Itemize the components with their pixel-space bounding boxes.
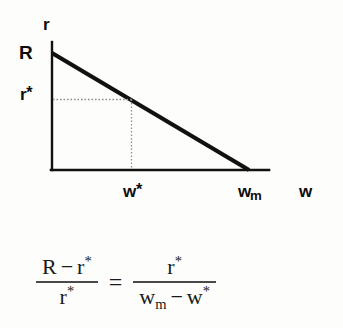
fraction-left-numerator: R−r*	[36, 254, 98, 281]
figure-container: r R r* w* wm w R−r* r* = r* wm−w*	[0, 0, 343, 328]
y-tick-label-r-star: r*	[20, 86, 32, 103]
x-tick-label-w-m: wm	[238, 183, 262, 200]
x-tick-w-star-glyph: *	[136, 180, 142, 198]
fraction-left-denominator: r*	[54, 284, 81, 311]
rent-gradient-line	[52, 53, 249, 170]
right-numerator-r-star: *	[175, 253, 182, 269]
right-denominator-w-star: *	[203, 283, 210, 299]
fraction-right: r* wm−w*	[133, 254, 216, 311]
y-axis-name-label: r	[43, 16, 49, 33]
numerator-r-star: *	[84, 253, 91, 269]
right-denominator-minus-operator: −	[166, 284, 186, 309]
x-tick-w-base: w	[123, 182, 136, 201]
numerator-R: R	[42, 254, 57, 279]
x-tick-wm-subscript: m	[250, 188, 261, 203]
right-numerator-r: r	[167, 254, 174, 279]
right-denominator-w: w	[139, 284, 155, 309]
x-tick-label-w-star: w*	[123, 183, 142, 200]
equation-block: R−r* r* = r* wm−w*	[0, 236, 343, 328]
x-axis-name-label: w	[299, 183, 312, 200]
equals-sign: =	[109, 269, 123, 296]
fraction-left: R−r* r*	[36, 254, 98, 311]
plot-area	[0, 0, 343, 215]
denominator-r-star: *	[67, 283, 74, 299]
right-denominator-w-star-base: w	[187, 284, 203, 309]
fraction-right-denominator: wm−w*	[133, 284, 216, 311]
fraction-right-numerator: r*	[161, 254, 188, 281]
x-tick-wm-base: w	[238, 182, 251, 201]
numerator-minus-operator: −	[57, 254, 77, 279]
right-denominator-w-subscript: m	[155, 296, 166, 312]
y-tick-r-star-glyph: *	[26, 83, 32, 101]
y-tick-label-R: R	[19, 43, 32, 62]
denominator-r: r	[60, 284, 67, 309]
